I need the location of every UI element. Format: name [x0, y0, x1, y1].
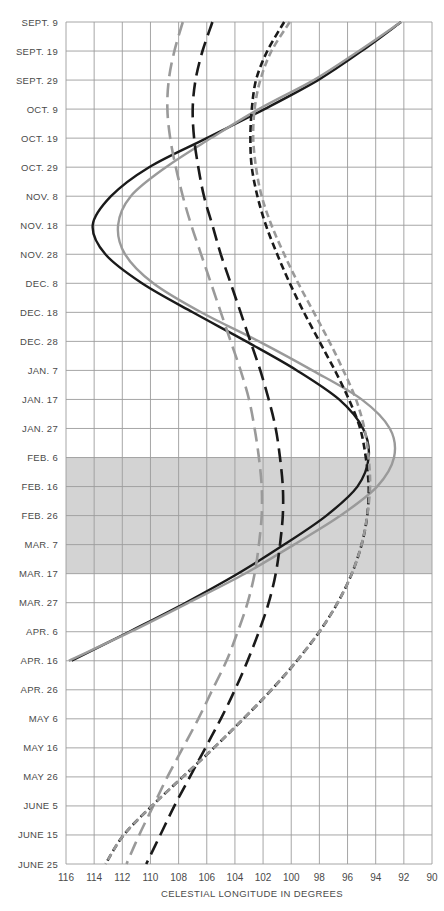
x-axis-labels: 1161141121101081061041021009896949290 — [58, 872, 438, 883]
y-tick-label: FEB. 16 — [22, 481, 58, 492]
y-tick-label: APR. 26 — [21, 684, 58, 695]
x-tick-label: 92 — [398, 872, 410, 883]
series-short-dash-black — [105, 22, 368, 864]
y-tick-label: JUNE 25 — [18, 859, 58, 870]
y-tick-label: DEC. 8 — [26, 278, 58, 289]
y-tick-label: MAY 6 — [29, 713, 58, 724]
chart: SEPT. 9SEPT. 19SEPT. 29OCT. 9OCT. 19OCT.… — [0, 0, 444, 911]
x-axis-title: CELESTIAL LONGITUDE IN DEGREES — [161, 888, 343, 899]
x-tick-label: 114 — [86, 872, 102, 883]
x-tick-label: 106 — [198, 872, 215, 883]
y-tick-label: MAY 26 — [23, 771, 58, 782]
x-tick-label: 112 — [114, 872, 130, 883]
y-tick-label: SEPT. 29 — [16, 75, 58, 86]
grid — [66, 22, 432, 864]
y-tick-label: MAY 16 — [23, 742, 58, 753]
x-tick-label: 90 — [426, 872, 438, 883]
x-tick-label: 108 — [170, 872, 187, 883]
y-tick-label: OCT. 19 — [21, 133, 58, 144]
x-tick-label: 104 — [227, 872, 244, 883]
series-short-dash-gray — [105, 22, 370, 864]
x-tick-label: 96 — [342, 872, 354, 883]
x-tick-label: 116 — [58, 872, 74, 883]
y-tick-label: JUNE 15 — [18, 829, 58, 840]
y-tick-label: NOV. 8 — [26, 191, 58, 202]
y-tick-label: SEPT. 19 — [16, 46, 58, 57]
y-tick-label: JUNE 5 — [23, 800, 58, 811]
y-tick-label: JAN. 17 — [22, 394, 58, 405]
x-tick-label: 100 — [283, 872, 300, 883]
y-tick-label: JAN. 7 — [28, 365, 58, 376]
y-tick-label: FEB. 26 — [22, 510, 58, 521]
y-tick-label: APR. 6 — [26, 626, 58, 637]
y-tick-label: DEC. 28 — [20, 336, 58, 347]
x-tick-label: 98 — [314, 872, 326, 883]
y-axis-labels: SEPT. 9SEPT. 19SEPT. 29OCT. 9OCT. 19OCT.… — [16, 17, 58, 870]
y-tick-label: DEC. 18 — [20, 307, 58, 318]
y-tick-label: FEB. 6 — [27, 452, 58, 463]
y-tick-label: MAR. 27 — [19, 597, 58, 608]
x-tick-label: 94 — [370, 872, 382, 883]
y-tick-label: NOV. 28 — [20, 249, 58, 260]
y-tick-label: MAR. 7 — [25, 539, 58, 550]
x-tick-label: 110 — [142, 872, 158, 883]
x-tick-label: 102 — [255, 872, 272, 883]
y-tick-label: APR. 16 — [21, 655, 58, 666]
y-tick-label: MAR. 17 — [19, 568, 58, 579]
y-tick-label: OCT. 29 — [21, 162, 58, 173]
y-tick-label: NOV. 18 — [20, 220, 58, 231]
y-tick-label: OCT. 9 — [27, 104, 58, 115]
y-tick-label: JAN. 27 — [22, 423, 58, 434]
y-tick-label: SEPT. 9 — [22, 17, 58, 28]
